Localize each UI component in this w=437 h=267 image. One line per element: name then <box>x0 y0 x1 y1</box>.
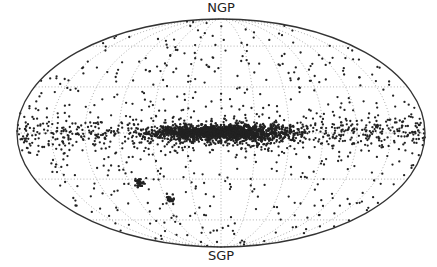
mollweide-plot <box>0 0 437 267</box>
sky-map: NGP SGP <box>0 0 437 267</box>
ngp-label: NGP <box>207 0 235 15</box>
sgp-label: SGP <box>208 248 234 263</box>
